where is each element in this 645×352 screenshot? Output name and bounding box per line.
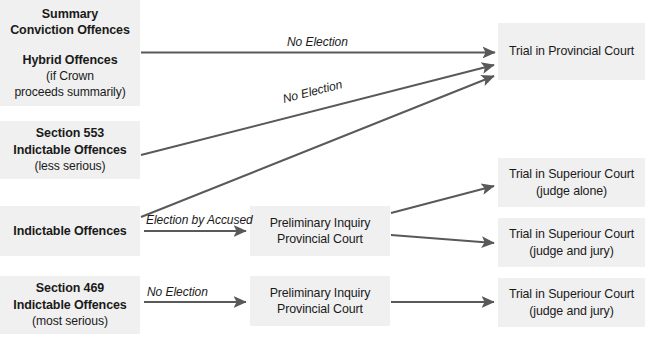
node-line: Trial in Superiour Court (509, 286, 634, 302)
node-trial-superior-court-judge-alone: Trial in Superiour Court (judge alone) (498, 158, 645, 207)
node-summary-hybrid-offences: Summary Conviction Offences Hybrid Offen… (0, 0, 140, 106)
node-trial-superior-court-judge-and-jury-1: Trial in Superiour Court (judge and jury… (498, 218, 645, 267)
node-line: Provincial Court (277, 301, 363, 317)
node-line: Preliminary Inquiry (270, 215, 371, 231)
node-line: proceeds summarily) (14, 84, 125, 100)
node-line: Section 553 (36, 125, 104, 142)
node-preliminary-inquiry-provincial-court-1: Preliminary Inquiry Provincial Court (250, 206, 390, 256)
edge-label-no-election-bottom: No Election (147, 285, 208, 299)
edge-label-no-election-top: No Election (287, 35, 348, 49)
node-section-553-indictable-offences: Section 553 Indictable Offences (less se… (0, 121, 140, 179)
node-line: Trial in Provincial Court (509, 43, 634, 59)
edge-prelim1-to-superior-judge-jury (391, 235, 494, 243)
node-line: Trial in Superiour Court (509, 226, 634, 242)
node-line: (judge and jury) (529, 243, 614, 259)
edge-label-election-by-accused: Election by Accused (146, 213, 253, 227)
node-line: (judge and jury) (529, 303, 614, 319)
node-line: Indictable Offences (13, 142, 126, 159)
node-line (68, 39, 71, 52)
node-trial-in-provincial-court: Trial in Provincial Court (498, 23, 645, 80)
node-section-469-indictable-offences: Section 469 Indictable Offences (most se… (0, 276, 140, 334)
node-line: (judge alone) (536, 183, 607, 199)
node-line: Trial in Superiour Court (509, 166, 634, 182)
node-line: Provincial Court (277, 231, 363, 247)
node-line: Indictable Offences (13, 223, 126, 240)
edge-s553-to-provincial (141, 65, 494, 155)
node-line: Hybrid Offences (22, 52, 117, 69)
node-line: Conviction Offences (10, 22, 130, 39)
node-preliminary-inquiry-provincial-court-2: Preliminary Inquiry Provincial Court (250, 276, 390, 326)
edge-prelim1-to-superior-judge-alone (391, 186, 494, 213)
node-trial-superior-court-judge-and-jury-2: Trial in Superiour Court (judge and jury… (498, 278, 645, 327)
edge-label-no-election-diagonal: No Election (281, 77, 343, 106)
node-line: (most serious) (32, 313, 108, 329)
node-line: Preliminary Inquiry (270, 285, 371, 301)
node-indictable-offences: Indictable Offences (0, 206, 140, 256)
node-line: Indictable Offences (13, 297, 126, 314)
node-line: (if Crown (46, 68, 94, 84)
node-line: (less serious) (34, 158, 105, 174)
offence-classification-flowchart: Summary Conviction Offences Hybrid Offen… (0, 0, 645, 352)
node-line: Summary (42, 6, 98, 23)
node-line: Section 469 (36, 280, 104, 297)
